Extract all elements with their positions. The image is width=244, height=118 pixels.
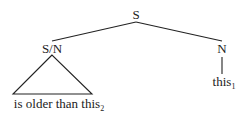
leaf-this-1: this1: [213, 75, 236, 89]
leaf-is-older-than-this-2: is older than this2: [14, 97, 104, 111]
node-n: N: [217, 42, 226, 56]
edge-s-to-n: [136, 22, 222, 41]
edge-s-to-sn: [52, 22, 136, 41]
node-s-slash-n: S/N: [42, 42, 62, 56]
subtree-triangle: [13, 55, 92, 94]
node-s: S: [132, 8, 139, 22]
